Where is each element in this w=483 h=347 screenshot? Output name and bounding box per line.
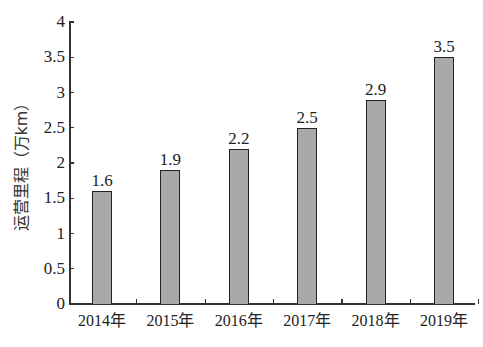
y-tick-label: 2 (57, 154, 66, 171)
x-tick-label: 2016年 (204, 312, 274, 330)
bar-value-label: 3.5 (419, 38, 469, 55)
bar-value-label: 2.5 (282, 109, 332, 126)
y-tick (69, 92, 74, 93)
bar-value-label: 2.9 (351, 81, 401, 98)
x-tick-label: 2015年 (135, 312, 205, 330)
x-tick (478, 299, 479, 304)
x-tick (205, 299, 206, 304)
y-axis-title: 运营里程（万km） (8, 95, 32, 232)
x-tick (273, 299, 274, 304)
x-tick-label: 2017年 (272, 312, 342, 330)
bar-2019 (434, 57, 454, 304)
bar-2014 (92, 191, 112, 304)
bar-2018 (366, 100, 386, 304)
y-tick (69, 57, 74, 58)
bar-2015 (160, 170, 180, 304)
y-tick-label: 3 (57, 84, 66, 101)
bar-2017 (297, 128, 317, 304)
bar-2016 (229, 149, 249, 304)
bar-value-label: 2.2 (214, 130, 264, 147)
x-tick-label: 2018年 (341, 312, 411, 330)
y-tick (69, 127, 74, 128)
y-tick (69, 303, 74, 304)
bar-value-label: 1.6 (77, 172, 127, 189)
y-tick (69, 21, 74, 22)
x-tick-label: 2014年 (67, 312, 137, 330)
bar-value-label: 1.9 (145, 151, 195, 168)
y-tick-label: 1 (57, 225, 66, 242)
x-tick (136, 299, 137, 304)
y-tick-label: 0.5 (44, 260, 65, 277)
x-tick-label: 2019年 (409, 312, 479, 330)
y-tick (69, 162, 74, 163)
y-tick-label: 2.5 (44, 119, 65, 136)
y-tick-label: 3.5 (44, 48, 65, 65)
y-tick (69, 268, 74, 269)
y-tick (69, 233, 74, 234)
y-tick (69, 198, 74, 199)
x-tick (341, 299, 342, 304)
y-tick-label: 1.5 (44, 189, 65, 206)
x-axis-line (69, 303, 475, 305)
y-tick-label: 4 (57, 13, 66, 30)
x-tick (410, 299, 411, 304)
y-tick-label: 0 (57, 295, 66, 312)
